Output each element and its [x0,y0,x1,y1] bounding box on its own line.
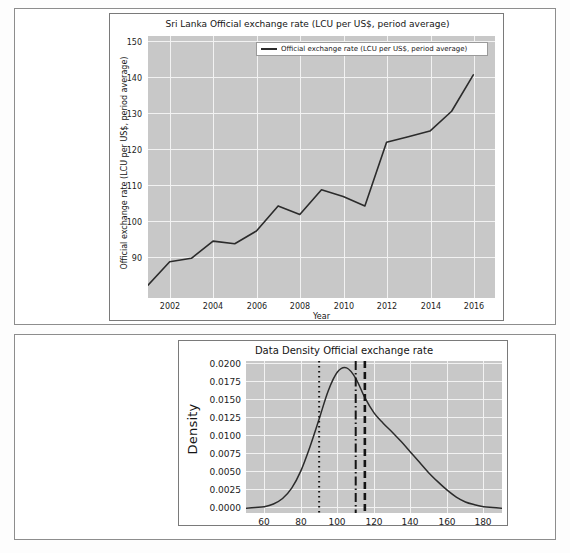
y-tick-0.0125: 0.0125 [195,413,241,423]
density-chart-title: Data Density Official exchange rate [179,345,509,356]
x-tick-160: 160 [429,517,465,527]
x-tick-2012: 2012 [369,302,405,311]
x-tick-2006: 2006 [239,302,275,311]
y-tick-140: 140 [112,74,142,83]
y-tick-150: 150 [112,38,142,47]
scanned-page: Sri Lanka Official exchange rate (LCU pe… [0,0,570,553]
x-tick-80: 80 [283,517,319,527]
exchange-rate-x-axis-title: Year [148,312,495,321]
y-tick-0.0075: 0.0075 [195,449,241,459]
x-tick-100: 100 [319,517,355,527]
legend-label: Official exchange rate (LCU per US$, per… [281,45,467,53]
exchange-rate-panel: Sri Lanka Official exchange rate (LCU pe… [14,8,556,325]
x-tick-2016: 2016 [456,302,492,311]
y-tick-0.0000: 0.0000 [195,503,241,513]
legend-line-swatch [261,48,277,50]
x-tick-2010: 2010 [326,302,362,311]
x-tick-140: 140 [392,517,428,527]
density-panel: Data Density Official exchange rate Dens… [14,334,556,540]
y-tick-120: 120 [112,146,142,155]
x-tick-180: 180 [465,517,501,527]
x-tick-120: 120 [356,517,392,527]
y-tick-90: 90 [112,254,142,263]
y-tick-0.0175: 0.0175 [195,377,241,387]
y-tick-110: 110 [112,182,142,191]
y-tick-0.0050: 0.0050 [195,467,241,477]
y-tick-0.0025: 0.0025 [195,485,241,495]
y-tick-0.0200: 0.0200 [195,359,241,369]
x-tick-2014: 2014 [413,302,449,311]
exchange-rate-figure: Sri Lanka Official exchange rate (LCU pe… [109,13,504,321]
density-figure: Data Density Official exchange rate Dens… [178,340,508,526]
exchange-rate-chart-title: Sri Lanka Official exchange rate (LCU pe… [110,19,505,29]
y-tick-100: 100 [112,218,142,227]
exchange-rate-line-series [148,36,495,298]
y-tick-130: 130 [112,110,142,119]
density-curve-series [246,361,502,513]
y-tick-0.0100: 0.0100 [195,431,241,441]
x-tick-2004: 2004 [195,302,231,311]
exchange-rate-plot-area [148,36,495,298]
exchange-rate-legend[interactable]: Official exchange rate (LCU per US$, per… [256,42,488,56]
x-tick-2008: 2008 [282,302,318,311]
density-plot-area [246,361,502,513]
x-tick-60: 60 [246,517,282,527]
x-tick-2002: 2002 [152,302,188,311]
y-tick-0.0150: 0.0150 [195,395,241,405]
